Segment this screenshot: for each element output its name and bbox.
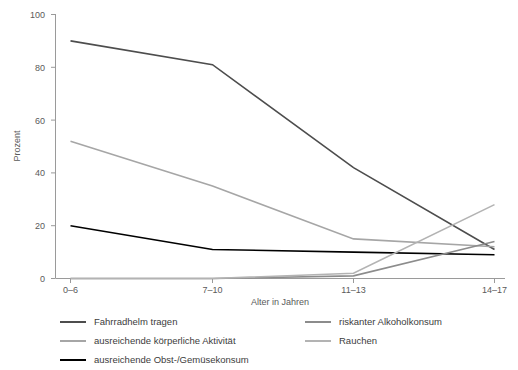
legend-row: ausreichende Obst-/Gemüsekonsum — [60, 350, 510, 369]
x-tick-label-2: 11–13 — [341, 285, 365, 295]
chart-container: 100 80 60 40 20 0 0–6 7–10 11–13 14–17 A… — [0, 0, 518, 370]
y-tick-label-80: 80 — [35, 63, 45, 73]
y-tick-label-60: 60 — [35, 116, 45, 126]
chart-legend: Fahrradhelm tragen riskanter Alkoholkons… — [60, 312, 510, 369]
legend-swatch — [305, 321, 331, 323]
series-line-2 — [71, 226, 495, 255]
legend-label: riskanter Alkoholkonsum — [339, 316, 442, 327]
y-tick-label-0: 0 — [40, 274, 45, 284]
legend-swatch — [60, 340, 86, 342]
legend-row: Fahrradhelm tragen riskanter Alkoholkons… — [60, 312, 510, 331]
y-axis-title: Prozent — [12, 130, 22, 162]
legend-item-fahrradhelm: Fahrradhelm tragen — [60, 316, 305, 327]
legend-item-alkoholkonsum: riskanter Alkoholkonsum — [305, 316, 505, 327]
legend-item-obst-gemuesekonsum: ausreichende Obst-/Gemüsekonsum — [60, 354, 305, 365]
legend-item-koerperliche-aktivitaet: ausreichende körperliche Aktivität — [60, 335, 305, 346]
legend-label: ausreichende Obst-/Gemüsekonsum — [94, 354, 249, 365]
legend-row: ausreichende körperliche Aktivität Rauch… — [60, 331, 510, 350]
legend-label: Fahrradhelm tragen — [94, 316, 177, 327]
x-tick-label-1: 7–10 — [202, 285, 222, 295]
legend-item-rauchen: Rauchen — [305, 335, 505, 346]
series-line-4 — [71, 205, 495, 279]
x-tick-label-0: 0–6 — [63, 285, 78, 295]
y-axis-ticks — [51, 15, 56, 279]
legend-swatch — [60, 321, 86, 323]
legend-swatch — [60, 359, 86, 361]
legend-label: ausreichende körperliche Aktivität — [94, 335, 236, 346]
y-tick-label-40: 40 — [35, 168, 45, 178]
x-tick-label-3: 14–17 — [482, 285, 507, 295]
series-lines — [71, 41, 495, 279]
series-line-0 — [71, 41, 495, 250]
legend-label: Rauchen — [339, 335, 377, 346]
y-tick-label-20: 20 — [35, 221, 45, 231]
y-tick-label-100: 100 — [30, 10, 45, 20]
series-line-3 — [71, 242, 495, 279]
series-line-1 — [71, 141, 495, 247]
x-axis-title: Alter in Jahren — [251, 297, 309, 307]
legend-swatch — [305, 340, 331, 342]
